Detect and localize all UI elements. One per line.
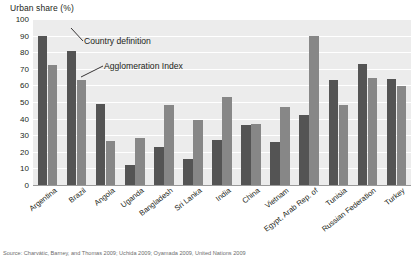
bar — [358, 64, 368, 185]
y-tick-60: 60 — [20, 81, 29, 90]
y-tick-40: 40 — [20, 114, 29, 123]
urban-share-bar-chart: Urban share (%) 0102030405060708090100 A… — [0, 0, 420, 258]
y-tick-0: 0 — [25, 181, 29, 190]
y-tick-80: 80 — [20, 48, 29, 57]
x-label-turkey: Turkey — [383, 186, 407, 207]
y-tick-100: 100 — [16, 15, 29, 24]
bar — [164, 105, 174, 185]
y-tick-10: 10 — [20, 164, 29, 173]
bar — [212, 140, 222, 185]
x-label-angola: Angola — [92, 186, 116, 208]
bar — [96, 104, 106, 185]
y-tick-50: 50 — [20, 98, 29, 107]
x-label-egypt-arab-rep-of: Egypt, Arab Rep. of — [262, 186, 319, 234]
bar — [106, 141, 116, 185]
x-label-brazil: Brazil — [67, 186, 88, 205]
source-note: Source: Charvátic, Barney, and Thomas 20… — [3, 250, 246, 256]
bar — [48, 65, 58, 185]
bar — [397, 86, 407, 185]
bar — [251, 124, 261, 185]
y-tick-20: 20 — [20, 147, 29, 156]
bar — [125, 165, 135, 185]
x-label-russian-federation: Russian Federation — [320, 186, 377, 234]
bar — [270, 142, 280, 185]
bar — [309, 36, 319, 185]
bar — [183, 159, 193, 185]
y-tick-70: 70 — [20, 64, 29, 73]
bar — [339, 105, 349, 186]
x-label-tunisia: Tunisia — [324, 186, 349, 208]
bar-group — [241, 19, 261, 185]
bar — [38, 36, 48, 185]
bar — [368, 78, 378, 185]
bar-group — [212, 19, 232, 185]
bar-group — [329, 19, 349, 185]
bar — [280, 107, 290, 185]
bar — [299, 115, 309, 185]
bar — [193, 120, 203, 185]
bar-group — [154, 19, 174, 185]
y-tick-90: 90 — [20, 31, 29, 40]
bar-group — [358, 19, 378, 185]
bar — [222, 97, 232, 185]
x-label-india: India — [214, 186, 233, 203]
bar — [135, 138, 145, 185]
bar-group — [387, 19, 407, 185]
x-label-sri-lanka: Sri Lanka — [173, 186, 204, 213]
bar-group — [38, 19, 58, 185]
bar-group — [299, 19, 319, 185]
bar-group — [270, 19, 290, 185]
bar — [67, 51, 77, 185]
annotation-country-definition: Country definition — [84, 36, 151, 46]
bar — [329, 80, 339, 185]
x-axis-category-labels: ArgentinaBrazilAngolaUgandaBangladeshSri… — [33, 186, 411, 246]
bar — [387, 79, 397, 185]
y-axis-tick-labels: 0102030405060708090100 — [0, 0, 33, 258]
bar — [77, 80, 87, 185]
x-label-china: China — [240, 186, 261, 205]
bar — [154, 147, 164, 185]
bar-group — [183, 19, 203, 185]
y-tick-30: 30 — [20, 131, 29, 140]
annotation-agglomeration-index: Agglomeration Index — [104, 61, 183, 71]
bar — [241, 125, 251, 185]
